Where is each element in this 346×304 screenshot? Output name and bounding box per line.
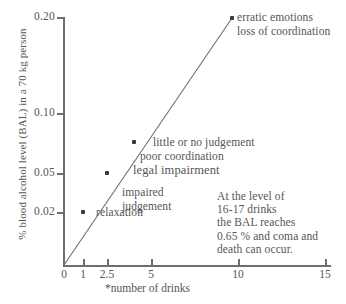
x-tick-label-10: 10	[223, 268, 253, 280]
annotation-line-4: 0.65 % and coma and	[217, 230, 318, 243]
label-impaired: impaired	[122, 186, 164, 200]
y-tick-010	[57, 113, 64, 115]
x-tick-label-25: 2.5	[92, 268, 122, 280]
annotation-line-2: 16-17 drinks	[217, 203, 318, 216]
x-tick-25	[107, 259, 109, 266]
y-tick-label-020: 0.20	[34, 10, 55, 22]
annotation-line-1: At the level of	[217, 190, 318, 203]
data-point-2.5-drinks	[105, 171, 109, 175]
x-tick-5	[151, 259, 153, 266]
x-tick-label-5: 5	[136, 268, 166, 280]
label-poor-coordination: poor coordination	[140, 150, 224, 164]
y-axis	[63, 17, 65, 266]
y-tick-label-005: 0.05	[34, 166, 55, 178]
y-tick-label-010: 0.10	[34, 106, 55, 118]
y-tick-label-002: 0.02	[34, 205, 55, 217]
data-point-4-drinks	[132, 140, 136, 144]
x-tick-10	[238, 259, 240, 266]
annotation-line-5: death can occur.	[217, 243, 318, 256]
label-loss-of-coordination: loss of coordination	[237, 25, 330, 39]
label-relaxation: relaxation	[96, 206, 143, 220]
data-point-10-drinks	[230, 16, 234, 20]
y-tick-002	[57, 212, 64, 214]
x-tick-1	[83, 259, 85, 266]
label-erratic-emotions: erratic emotions	[237, 11, 313, 25]
x-tick-15	[325, 259, 327, 266]
annotation-text-block: At the level of 16-17 drinks the BAL rea…	[217, 190, 318, 256]
x-axis-title: *number of drinks	[105, 282, 190, 294]
x-axis	[63, 265, 331, 267]
label-legal-impairment: legal impairment	[133, 164, 220, 178]
y-tick-005	[57, 173, 64, 175]
annotation-line-3: the BAL reaches	[217, 216, 318, 229]
y-tick-020	[57, 17, 64, 19]
x-tick-label-15: 15	[310, 268, 340, 280]
data-point-1-drink	[81, 210, 85, 214]
chart-figure: 0.20 0.10 0.05 0.02 0 1 2.5 5 10 15 % bl…	[0, 0, 346, 304]
y-axis-title: % blood alcohol level (BAL) in a 70 kg p…	[16, 8, 28, 260]
label-little-or-no-judgement: little or no judgement	[153, 136, 255, 150]
